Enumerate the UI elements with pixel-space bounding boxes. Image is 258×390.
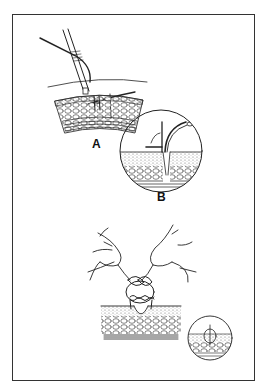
suture-illustration	[0, 0, 258, 390]
skin-section-a	[55, 95, 143, 133]
needle-holder-icon	[63, 29, 89, 94]
inset-circle-completed-suture	[186, 316, 234, 360]
skin-surface-line	[48, 79, 147, 87]
surgical-knot	[126, 276, 154, 309]
panel-label-a: A	[92, 137, 101, 151]
hands-tying-knot	[88, 225, 196, 282]
panel-label-b: B	[157, 190, 166, 204]
skin-section-lower	[101, 306, 181, 339]
inset-circle-b	[118, 110, 208, 192]
